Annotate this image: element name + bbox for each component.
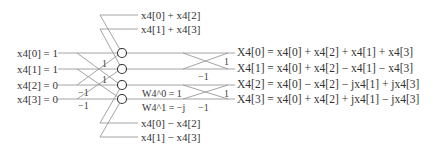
adder-node [118, 65, 127, 74]
adder-node [118, 49, 127, 58]
output-equation: X4[1] = x4[0] + x4[2] − x4[1] − x4[3] [237, 62, 413, 75]
output-equation: X4[0] = x4[0] + x4[2] + x4[1] + x4[3] [237, 46, 413, 59]
intermediate-sum-label: x4[1] + x4[3] [141, 23, 200, 35]
input-label: x4[2] = 0 [17, 79, 58, 91]
coefficient-label: 1 [102, 75, 107, 85]
coefficient-label: −1 [198, 72, 209, 82]
coefficient-label: 1 [102, 59, 107, 69]
output-equation: X4[2] = x4[0] − x4[2] − jx4[1] + jx4[3] [237, 78, 419, 91]
coefficient-label: −1 [78, 101, 89, 111]
input-label: x4[1] = 1 [17, 63, 58, 75]
adder-node [118, 95, 127, 104]
coefficient-label: 1 [224, 57, 229, 67]
input-label: x4[0] = 1 [17, 47, 58, 59]
twiddle-label: W4^1 = −j [142, 102, 185, 114]
output-equation: X4[3] = x4[0] + x4[2] + jx4[1] − jx4[3] [237, 93, 419, 106]
intermediate-diff-label: x4[1] − x4[3] [141, 131, 200, 143]
twiddle-label: W4^0 = 1 [142, 88, 182, 100]
coefficient-label: −1 [198, 103, 209, 113]
intermediate-sum-label: x4[0] + x4[2] [141, 9, 200, 21]
coefficient-label: 1 [224, 89, 229, 99]
input-label: x4[3] = 0 [17, 93, 58, 105]
coefficient-label: −1 [78, 88, 89, 98]
intermediate-diff-label: x4[0] − x4[2] [141, 117, 200, 129]
butterfly-wires [0, 0, 445, 154]
adder-node [118, 81, 127, 90]
